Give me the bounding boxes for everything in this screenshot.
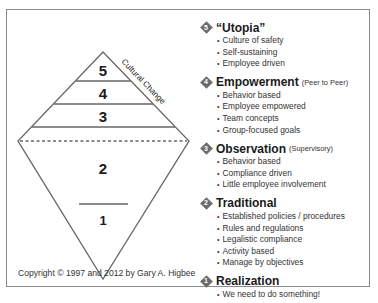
level-1: 1 Realization We need to do something! xyxy=(200,275,370,301)
level-title: Observation xyxy=(216,142,286,156)
bullet: Established policies / procedures xyxy=(217,211,370,223)
pyramid-label-2: 2 xyxy=(99,160,107,177)
pyramid-label-4: 4 xyxy=(99,85,108,102)
bullet: Manage by objectives xyxy=(217,257,370,269)
pyramid-label-3: 3 xyxy=(99,108,107,125)
bullet: Self-sustaining xyxy=(217,47,370,59)
bullet: Employee empowered xyxy=(217,101,370,113)
level-bullets: We need to do something! xyxy=(200,289,370,301)
level-bullets: Behavior based Compliance driven Little … xyxy=(200,156,370,191)
bullet: Behavior based xyxy=(217,90,370,102)
bullet: Group-focused goals xyxy=(217,125,370,137)
level-title: Empowerment xyxy=(216,75,299,89)
levels-legend: 5 “Utopia” Culture of safety Self-sustai… xyxy=(200,21,370,303)
level-title: Realization xyxy=(216,274,279,288)
level-2: 2 Traditional Established policies / pro… xyxy=(200,197,370,269)
level-subtitle: (Supervisory) xyxy=(289,144,333,153)
bullet: Legalistic compliance xyxy=(217,234,370,246)
bullet: Employee driven xyxy=(217,58,370,70)
bullet: Team concepts xyxy=(217,113,370,125)
level-title: “Utopia” xyxy=(216,21,265,35)
pyramid-label-5: 5 xyxy=(99,62,107,79)
diamond-number-icon: 2 xyxy=(200,197,212,209)
level-subtitle: (Peer to Peer) xyxy=(302,78,348,87)
bullet: Activity based xyxy=(217,246,370,258)
bullet: Behavior based xyxy=(217,156,370,168)
bullet: Culture of safety xyxy=(217,35,370,47)
diamond-number-icon: 4 xyxy=(200,76,212,88)
level-bullets: Behavior based Employee empowered Team c… xyxy=(200,90,370,136)
level-bullets: Culture of safety Self-sustaining Employ… xyxy=(200,35,370,70)
diamond-number-icon: 1 xyxy=(200,275,212,287)
level-bullets: Established policies / procedures Rules … xyxy=(200,211,370,269)
bullet: Rules and regulations xyxy=(217,223,370,235)
bullet: Compliance driven xyxy=(217,168,370,180)
diamond-number-icon: 3 xyxy=(200,143,212,155)
level-title: Traditional xyxy=(216,196,277,210)
bullet: We need to do something! xyxy=(217,289,370,301)
cultural-change-label: Cultural Change xyxy=(120,57,168,106)
level-5: 5 “Utopia” Culture of safety Self-sustai… xyxy=(200,21,370,70)
pyramid-label-1: 1 xyxy=(99,213,106,228)
level-4: 4 Empowerment (Peer to Peer) Behavior ba… xyxy=(200,76,370,136)
level-3: 3 Observation (Supervisory) Behavior bas… xyxy=(200,142,370,191)
bullet: Little employee involvement xyxy=(217,179,370,191)
copyright-text: Copyright © 1997 and 2012 by Gary A. Hig… xyxy=(18,268,195,278)
diamond-number-icon: 5 xyxy=(200,22,212,34)
